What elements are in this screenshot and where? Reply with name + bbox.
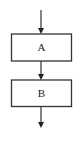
- entry-arrow: [38, 10, 44, 34]
- node-b: B: [12, 80, 72, 107]
- exit-arrow: [38, 107, 44, 129]
- arrow-a-to-b: [38, 61, 44, 80]
- node-b-label: B: [38, 87, 45, 99]
- flowchart: A B: [0, 0, 80, 141]
- node-a: A: [12, 34, 72, 61]
- node-a-label: A: [38, 41, 46, 53]
